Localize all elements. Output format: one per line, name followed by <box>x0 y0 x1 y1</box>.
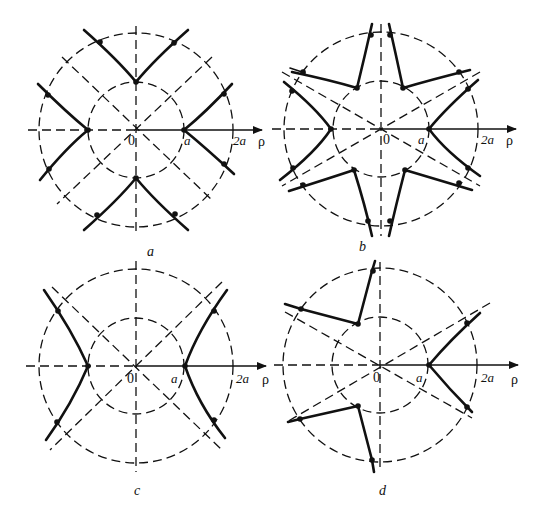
panel-d: 0 a 2a ρ d <box>274 261 518 498</box>
tick-2a-label-a: 2a <box>233 133 247 148</box>
rho-label-b: ρ <box>506 133 513 148</box>
panel-c: 0 a 2a ρ c <box>26 261 269 498</box>
tick-a-label-c: a <box>171 371 178 386</box>
tick-a-label-d: a <box>416 370 423 385</box>
origin-label-d: 0 <box>373 370 380 385</box>
panel-b: 0 a 2a ρ b <box>272 24 516 254</box>
origin-label-c: 0 <box>127 371 134 386</box>
origin-label-b: 0 <box>383 132 390 147</box>
branch-lower-left-d <box>288 406 374 472</box>
tick-a-label-b: a <box>418 132 425 147</box>
branch-right-d <box>429 313 480 412</box>
figure-canvas: 0 a 2a ρ a <box>0 0 542 527</box>
rho-label-d: ρ <box>511 372 518 387</box>
branch-upper-left-d <box>285 261 375 324</box>
rho-label-c: ρ <box>262 372 269 387</box>
branch-bottom-left-b <box>289 170 372 236</box>
tick-2a-label-d: 2a <box>481 370 495 385</box>
caption-d: d <box>379 483 387 498</box>
tick-2a-label-b: 2a <box>481 132 495 147</box>
tick-2a-label-c: 2a <box>236 371 250 386</box>
caption-b: b <box>359 239 366 254</box>
origin-label-a: 0 <box>128 133 135 148</box>
tick-a-label-a: a <box>184 133 191 148</box>
panel-a: 0 a 2a ρ a <box>28 26 265 259</box>
rho-label-a: ρ <box>258 134 265 149</box>
branch-bottom-right-b <box>389 170 472 236</box>
branch-right-a <box>184 84 234 174</box>
branch-top-left-b <box>292 24 372 88</box>
caption-c: c <box>134 483 141 498</box>
caption-a: a <box>147 244 154 259</box>
branch-left-b <box>280 82 331 180</box>
branch-left-c <box>44 290 88 440</box>
diagonal-1-c <box>52 287 222 450</box>
diagonal-2-d <box>285 303 490 423</box>
